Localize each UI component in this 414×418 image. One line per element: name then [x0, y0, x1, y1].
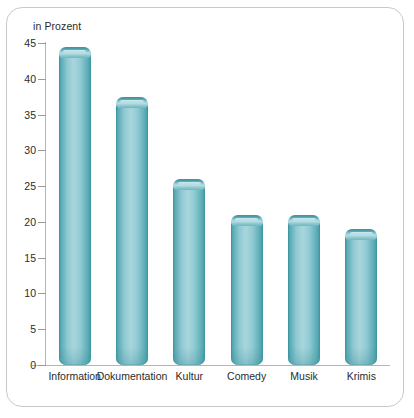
bar-dokumentation[interactable]: [116, 97, 148, 365]
bar-cap-highlight: [292, 218, 315, 222]
y-axis-tick-label: 25: [2, 180, 36, 192]
y-axis-tick-label: 15: [2, 252, 36, 264]
bar-information[interactable]: [59, 47, 91, 365]
x-axis-line: [32, 365, 390, 366]
y-axis-tick-label: 5: [2, 323, 36, 335]
y-axis-tick-mark: [38, 222, 46, 223]
x-axis-label-comedy: Comedy: [227, 370, 266, 382]
bar-krimis[interactable]: [345, 229, 377, 365]
y-axis-tick-mark: [38, 293, 46, 294]
bar-cap-highlight: [120, 100, 143, 104]
y-axis-tick-label: 10: [2, 287, 36, 299]
y-axis-tick-mark: [38, 115, 46, 116]
y-axis-tick-mark: [38, 365, 46, 366]
bar-column[interactable]: [345, 229, 377, 365]
bar-chart: in Prozent 051015202530354045 Informatio…: [0, 0, 414, 418]
y-axis-tick-mark: [38, 43, 46, 44]
bar-column[interactable]: [231, 215, 263, 365]
bar-top-cap: [231, 215, 263, 226]
bar-musik[interactable]: [288, 215, 320, 365]
y-axis-tick-label: 45: [2, 37, 36, 49]
x-axis-label-musik: Musik: [290, 370, 317, 382]
y-axis-tick-mark: [38, 258, 46, 259]
x-axis-label-information: Information: [48, 370, 101, 382]
y-axis-tick-label: 20: [2, 216, 36, 228]
x-axis-label-kultur: Kultur: [176, 370, 203, 382]
bar-top-cap: [345, 229, 377, 240]
bar-kultur[interactable]: [173, 179, 205, 365]
y-axis-tick-label: 30: [2, 144, 36, 156]
bar-comedy[interactable]: [231, 215, 263, 365]
y-axis-tick-mark: [38, 150, 46, 151]
bar-bottom-shading: [345, 347, 377, 365]
y-axis-tick-label: 40: [2, 73, 36, 85]
bar-column[interactable]: [116, 97, 148, 365]
x-axis-label-krimis: Krimis: [347, 370, 376, 382]
bar-cap-highlight: [178, 182, 201, 186]
bar-cap-highlight: [350, 232, 373, 236]
bar-bottom-shading: [59, 347, 91, 365]
bar-bottom-shading: [288, 347, 320, 365]
bar-column[interactable]: [173, 179, 205, 365]
y-axis-unit-label: in Prozent: [33, 20, 81, 32]
bar-top-cap: [173, 179, 205, 190]
y-axis-line: [45, 42, 46, 366]
bar-cap-highlight: [63, 50, 86, 54]
bar-column[interactable]: [59, 47, 91, 365]
bar-bottom-shading: [173, 347, 205, 365]
y-axis-tick-mark: [38, 329, 46, 330]
bar-bottom-shading: [231, 347, 263, 365]
bar-bottom-shading: [116, 347, 148, 365]
y-axis-tick-mark: [38, 79, 46, 80]
bar-column[interactable]: [288, 215, 320, 365]
bar-cap-highlight: [235, 218, 258, 222]
bar-top-cap: [59, 47, 91, 58]
y-axis-tick-label: 0: [2, 359, 36, 371]
x-axis-label-dokumentation: Dokumentation: [97, 370, 168, 382]
y-axis-tick-mark: [38, 186, 46, 187]
y-axis-tick-label: 35: [2, 109, 36, 121]
bar-top-cap: [116, 97, 148, 108]
bar-top-cap: [288, 215, 320, 226]
